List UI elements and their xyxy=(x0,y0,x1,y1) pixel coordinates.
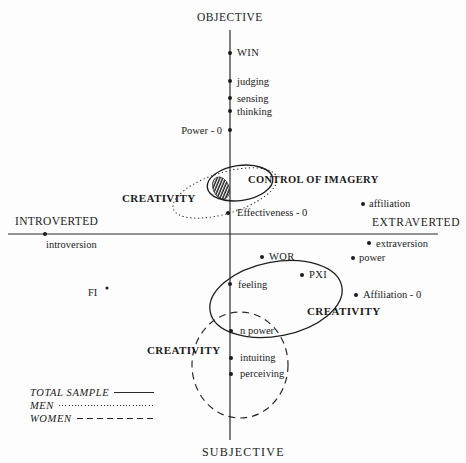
legend-label-men: MEN xyxy=(30,400,54,411)
point-label-fi: FI xyxy=(88,287,97,298)
dot-n-power xyxy=(229,329,233,333)
dot-sensing xyxy=(228,96,232,100)
dot-intuiting xyxy=(229,356,233,360)
point-label-introversion: introversion xyxy=(46,239,97,250)
dot-affiliation-0 xyxy=(354,293,358,297)
ellipse-total-sample-lower-solid xyxy=(203,250,349,348)
legend-label-women: WOMEN xyxy=(30,413,72,424)
dot-thinking xyxy=(228,109,232,113)
dot-wor xyxy=(260,255,264,259)
point-label-affiliation-0: Affiliation - 0 xyxy=(363,289,421,300)
point-label-affiliation: affiliation xyxy=(369,198,410,209)
hatched-overlap-blob xyxy=(209,174,232,201)
point-label-wor: WOR xyxy=(269,251,295,262)
region-label-control-of-imagery: CONTROL OF IMAGERY xyxy=(248,174,379,185)
legend-item-men: MEN xyxy=(30,399,154,412)
point-label-thinking: thinking xyxy=(237,106,272,117)
dot-feeling xyxy=(228,282,232,286)
point-label-power-0: Power - 0 xyxy=(160,125,222,136)
point-label-effectiveness-0: Effectiveness - 0 xyxy=(237,207,307,218)
point-label-extraversion: extraversion xyxy=(376,238,428,249)
region-label-creativity-lower: CREATIVITY xyxy=(147,345,220,356)
diagram-canvas: OBJECTIVE SUBJECTIVE INTROVERTED EXTRAVE… xyxy=(0,0,466,463)
region-label-creativity-upper: CREATIVITY xyxy=(122,193,195,204)
dot-perceiving xyxy=(229,372,233,376)
point-label-win: WIN xyxy=(237,47,259,58)
axis-label-introverted: INTROVERTED xyxy=(15,215,98,227)
point-label-pxi: PXI xyxy=(309,269,327,280)
legend-item-total-sample: TOTAL SAMPLE xyxy=(30,386,154,399)
dot-win xyxy=(228,51,232,55)
point-label-judging: judging xyxy=(237,76,269,87)
legend-label-total-sample: TOTAL SAMPLE xyxy=(30,387,109,398)
dot-affiliation xyxy=(361,202,365,206)
legend: TOTAL SAMPLE MEN WOMEN xyxy=(30,386,154,425)
legend-line-dashed xyxy=(77,418,155,419)
axis-label-objective: OBJECTIVE xyxy=(197,11,263,23)
legend-line-solid xyxy=(114,392,154,393)
legend-line-dotted xyxy=(59,405,154,406)
dot-effectiveness-0 xyxy=(226,211,230,215)
legend-item-women: WOMEN xyxy=(30,412,154,425)
axis-label-extraverted: EXTRAVERTED xyxy=(372,216,460,228)
point-label-n-power: n power xyxy=(240,325,274,336)
dot-judging xyxy=(228,79,232,83)
dot-introversion xyxy=(43,232,47,236)
point-label-feeling: feeling xyxy=(238,279,267,290)
dot-pxi xyxy=(300,273,304,277)
point-label-power: power xyxy=(359,252,385,263)
dot-power-0 xyxy=(228,128,232,132)
point-label-sensing: sensing xyxy=(237,93,269,104)
dot-power xyxy=(351,256,355,260)
region-label-creativity-middle: CREATIVITY xyxy=(307,306,380,317)
point-label-intuiting: intuiting xyxy=(240,352,276,363)
dot-extraversion xyxy=(367,241,371,245)
axis-label-subjective: SUBJECTIVE xyxy=(202,446,285,458)
point-label-perceiving: perceiving xyxy=(240,368,284,379)
dot-fi xyxy=(106,287,109,290)
